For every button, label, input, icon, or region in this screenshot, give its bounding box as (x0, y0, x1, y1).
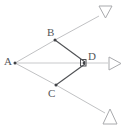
segment-A-B (15, 40, 55, 63)
arrowhead-upper-right-icon (99, 6, 112, 18)
geometry-figure (0, 0, 125, 131)
diagram-canvas: A B C D (0, 0, 125, 131)
ray-A-through-C (56, 85, 105, 113)
vertex-dot-D (83, 62, 86, 65)
arrowhead-right-icon (109, 57, 121, 70)
segment-A-C (15, 63, 56, 85)
vertex-dot-B (54, 39, 57, 42)
ray-A-through-B (55, 16, 99, 40)
arrowhead-lower-right-icon (103, 109, 117, 124)
point-label-A: A (4, 56, 12, 67)
point-label-C: C (48, 88, 55, 99)
vertex-dot-A (14, 62, 17, 65)
segment-B-D (55, 40, 85, 62)
point-label-D: D (88, 51, 96, 62)
segment-C-D (56, 64, 85, 85)
point-label-B: B (47, 27, 54, 38)
